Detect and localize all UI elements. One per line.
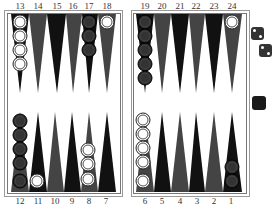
- dark-checker[interactable]: [225, 160, 239, 174]
- dark-checker[interactable]: [82, 15, 96, 29]
- dark-checker[interactable]: [13, 156, 27, 170]
- point-5[interactable]: [154, 112, 171, 192]
- white-checker[interactable]: [136, 113, 150, 127]
- dark-checker[interactable]: [138, 15, 152, 29]
- point-7[interactable]: [98, 112, 116, 192]
- dark-checker[interactable]: [13, 114, 27, 128]
- checkers-point-18: [100, 15, 114, 29]
- die-pip: [267, 52, 270, 55]
- die-pip: [253, 29, 256, 32]
- die-2[interactable]: [259, 44, 272, 57]
- checkers-point-11: [30, 174, 44, 188]
- point-16[interactable]: [66, 14, 82, 93]
- dark-checker[interactable]: [82, 29, 96, 43]
- checkers-point-8: [81, 143, 95, 186]
- point-23[interactable]: [205, 14, 223, 93]
- dark-checker[interactable]: [138, 57, 152, 71]
- point-21[interactable]: [171, 14, 189, 93]
- dark-checker[interactable]: [225, 174, 239, 188]
- dark-checker[interactable]: [13, 174, 27, 188]
- doubling-cube-icon[interactable]: [252, 96, 266, 110]
- white-checker[interactable]: [136, 141, 150, 155]
- white-checker[interactable]: [81, 172, 95, 186]
- white-checker[interactable]: [13, 29, 27, 43]
- point-4[interactable]: [171, 112, 189, 192]
- checkers-point-12: [13, 114, 27, 188]
- point-22[interactable]: [189, 14, 205, 93]
- checkers-point-24: [225, 15, 239, 29]
- white-checker[interactable]: [136, 127, 150, 141]
- white-checker[interactable]: [136, 155, 150, 169]
- die-pip: [261, 46, 264, 49]
- white-checker[interactable]: [136, 174, 150, 188]
- checkers-point-17: [82, 15, 96, 57]
- dark-checker[interactable]: [138, 71, 152, 85]
- dark-checker[interactable]: [138, 43, 152, 57]
- white-checker[interactable]: [30, 174, 44, 188]
- checkers-point-19: [138, 15, 152, 85]
- point-9[interactable]: [64, 112, 81, 192]
- white-checker[interactable]: [225, 15, 239, 29]
- white-checker[interactable]: [100, 15, 114, 29]
- point-14[interactable]: [29, 14, 47, 93]
- white-checker[interactable]: [13, 57, 27, 71]
- point-15[interactable]: [47, 14, 66, 93]
- points-top-left: [11, 14, 116, 93]
- die-1[interactable]: [251, 27, 264, 40]
- dark-checker[interactable]: [13, 128, 27, 142]
- point-10[interactable]: [47, 112, 64, 192]
- point-2[interactable]: [205, 112, 223, 192]
- board-graphics: [0, 0, 275, 209]
- white-checker[interactable]: [13, 15, 27, 29]
- point-20[interactable]: [154, 14, 171, 93]
- white-checker[interactable]: [81, 157, 95, 171]
- dark-checker[interactable]: [82, 43, 96, 57]
- checkers-point-6: [136, 113, 150, 188]
- white-checker[interactable]: [81, 143, 95, 157]
- dark-checker[interactable]: [13, 142, 27, 156]
- white-checker[interactable]: [13, 43, 27, 57]
- point-3[interactable]: [189, 112, 205, 192]
- die-pip: [259, 35, 262, 38]
- dark-checker[interactable]: [138, 29, 152, 43]
